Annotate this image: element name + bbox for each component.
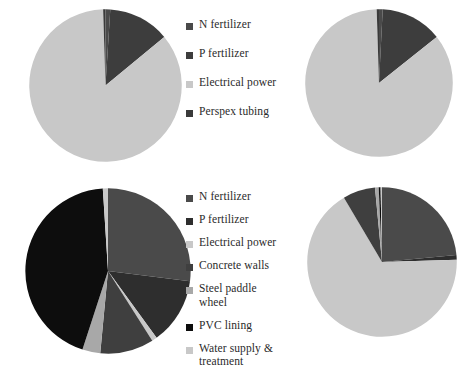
legend-swatch-icon: [186, 110, 193, 117]
panel-bottom-left: [24, 187, 192, 355]
pie-top-left: [28, 8, 183, 163]
legend-item-label: N fertilizer: [199, 190, 251, 204]
legend-item[interactable]: P fertilizer: [186, 213, 304, 227]
pie-slice: [382, 187, 456, 262]
legend-bottom: N fertilizerP fertilizerElectrical power…: [186, 190, 304, 378]
legend-swatch-icon: [186, 81, 193, 88]
legend-top: N fertilizerP fertilizerElectrical power…: [186, 18, 298, 134]
legend-item-label: P fertilizer: [199, 47, 249, 61]
legend-swatch-icon: [186, 218, 193, 225]
legend-swatch-icon: [186, 347, 193, 354]
legend-swatch-icon: [186, 264, 193, 271]
legend-item[interactable]: Electrical power: [186, 236, 304, 250]
panel-top-right: [304, 8, 454, 158]
legend-item[interactable]: Steel paddle wheel: [186, 282, 304, 309]
legend-item[interactable]: P fertilizer: [186, 47, 298, 76]
legend-item[interactable]: Electrical power: [186, 76, 298, 105]
legend-item-label: Perspex tubing: [199, 105, 269, 119]
legend-swatch-icon: [186, 23, 193, 30]
legend-item[interactable]: Concrete walls: [186, 259, 304, 273]
legend-item-label: Electrical power: [199, 76, 276, 90]
legend-item[interactable]: N fertilizer: [186, 18, 298, 47]
legend-item-label: Water supply & treatment: [199, 342, 273, 369]
pie-chart-figure: N fertilizerP fertilizerElectrical power…: [0, 0, 465, 380]
legend-item-label: Electrical power: [199, 236, 276, 250]
pie-bottom-left: [24, 187, 192, 355]
legend-swatch-icon: [186, 195, 193, 202]
legend-item[interactable]: Water supply & treatment: [186, 342, 304, 369]
legend-swatch-icon: [186, 52, 193, 59]
pie-bottom-right: [306, 186, 458, 338]
pie-slice: [108, 188, 191, 281]
panel-bottom-right: [306, 186, 458, 338]
legend-swatch-icon: [186, 241, 193, 248]
panel-top-left: [28, 8, 183, 163]
legend-item-label: N fertilizer: [199, 18, 251, 32]
legend-item[interactable]: N fertilizer: [186, 190, 304, 204]
legend-item-label: PVC lining: [199, 319, 252, 333]
legend-swatch-icon: [186, 287, 193, 294]
legend-item[interactable]: Perspex tubing: [186, 105, 298, 134]
legend-item-label: Concrete walls: [199, 259, 269, 273]
legend-item[interactable]: PVC lining: [186, 319, 304, 333]
legend-swatch-icon: [186, 324, 193, 331]
pie-top-right: [304, 8, 454, 158]
legend-item-label: P fertilizer: [199, 213, 249, 227]
legend-item-label: Steel paddle wheel: [199, 282, 257, 309]
